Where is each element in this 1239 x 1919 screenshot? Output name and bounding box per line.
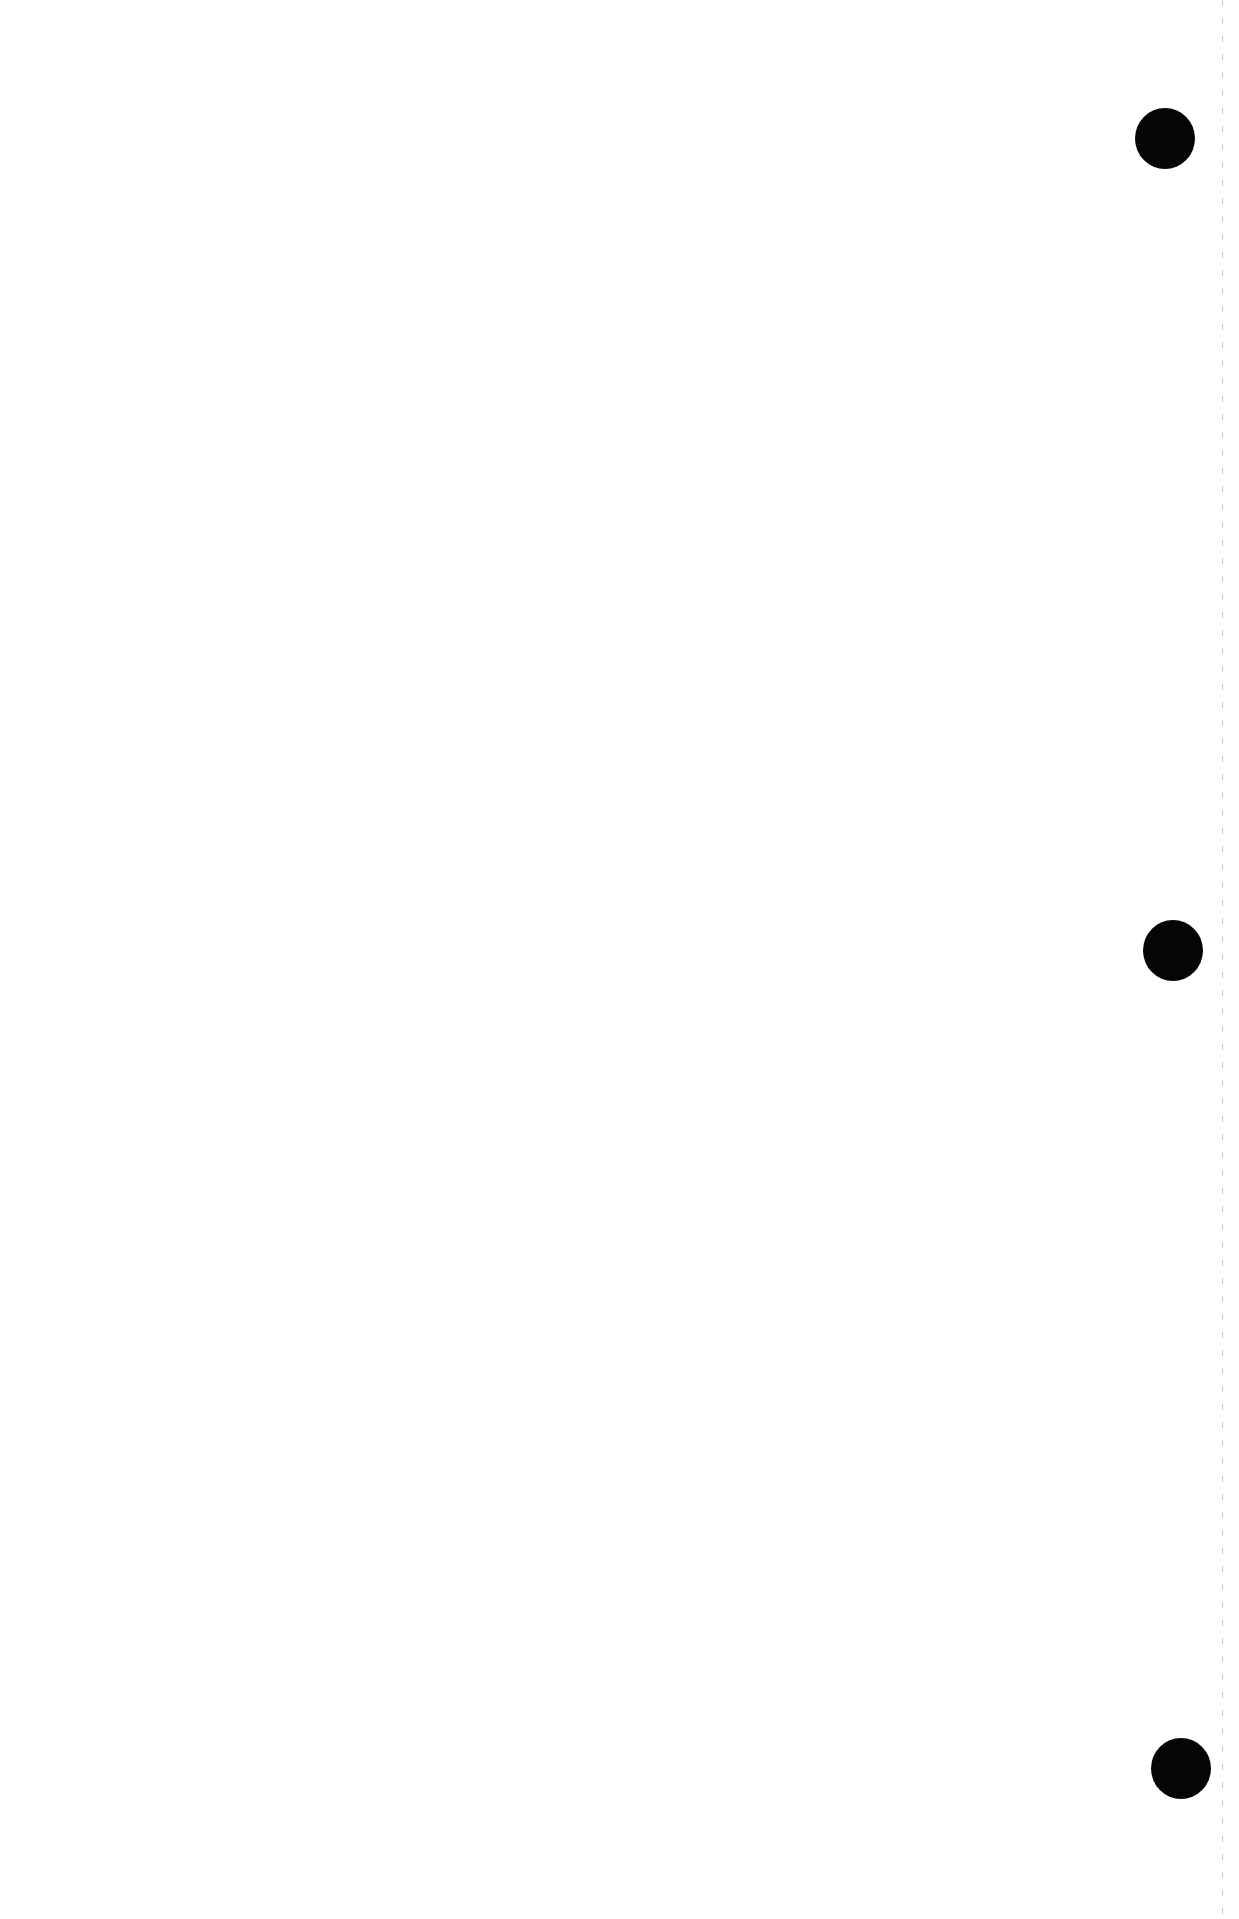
blank-scanned-page (0, 0, 1239, 1919)
punch-hole-middle (1143, 920, 1203, 981)
page-edge-line (1222, 0, 1223, 1919)
punch-hole-bottom (1151, 1738, 1211, 1799)
punch-hole-top (1135, 108, 1195, 169)
